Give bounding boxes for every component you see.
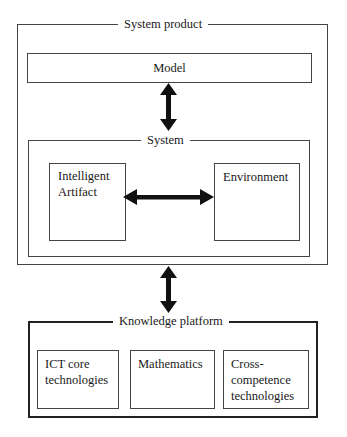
model-system-arrow-icon (160, 83, 177, 131)
artifact-environment-arrow-icon (123, 189, 214, 205)
arrows-layer (0, 0, 347, 437)
product-knowledge-arrow-icon (160, 266, 177, 313)
